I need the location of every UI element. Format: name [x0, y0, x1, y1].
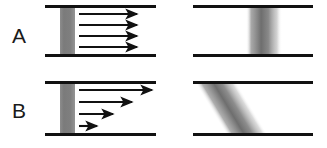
flow-profile-figure: A B — [0, 0, 327, 148]
row-b-velocity-arrows — [79, 90, 152, 126]
row-a-right-panel — [193, 7, 313, 56]
row-a-tracer-band-initial — [60, 7, 75, 54]
row-b-left-panel — [45, 83, 156, 135]
row-a-tracer-band-result — [246, 7, 282, 54]
row-a-velocity-arrows — [79, 14, 137, 47]
row-b-right-panel — [191, 58, 313, 148]
row-b-tracer-band-initial — [60, 83, 75, 133]
row-a-left-panel — [45, 7, 156, 56]
figure-canvas — [0, 0, 327, 148]
